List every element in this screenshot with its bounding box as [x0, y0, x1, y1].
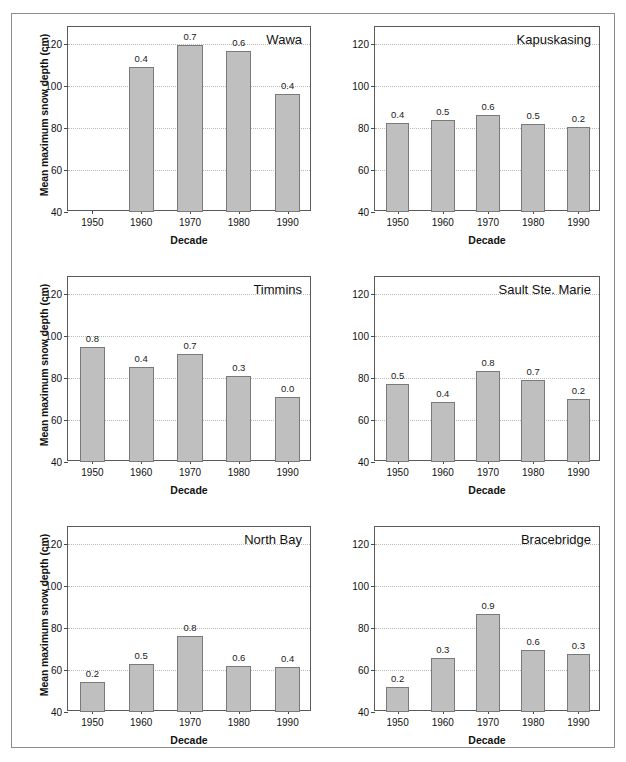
figure-frame: Mean maximum snow depth (cm)406080100120… — [11, 13, 615, 748]
gridline — [375, 86, 599, 87]
x-axis-title: Decade — [375, 234, 599, 246]
y-tick-label: 120 — [352, 38, 369, 49]
panel-grid: Mean maximum snow depth (cm)406080100120… — [12, 14, 614, 747]
bar-value-label: 0.6 — [527, 636, 540, 647]
panel-title: Bracebridge — [521, 532, 591, 547]
x-tick-label: 1970 — [179, 717, 201, 728]
y-tick-label: 100 — [352, 80, 369, 91]
bar — [521, 650, 545, 712]
panel-sault-ste-marie: 40608010012019500.519600.419700.819800.7… — [329, 264, 614, 514]
bar-value-label: 0.3 — [232, 362, 245, 373]
y-tick-label: 60 — [358, 414, 369, 425]
x-tick-label: 1970 — [179, 217, 201, 228]
gridline — [375, 336, 599, 337]
y-tick-label: 100 — [45, 80, 62, 91]
x-tick-label: 1950 — [81, 467, 103, 478]
panel-title: Kapuskasing — [517, 32, 591, 47]
y-tick-label: 80 — [358, 122, 369, 133]
x-tick-label: 1950 — [81, 217, 103, 228]
bar-value-label: 0.4 — [135, 353, 148, 364]
bar-value-label: 0.5 — [527, 110, 540, 121]
bar — [177, 636, 202, 712]
x-tick-label: 1990 — [567, 467, 589, 478]
bar-value-label: 0.5 — [436, 106, 449, 117]
y-tick-mark — [371, 170, 375, 171]
bar — [386, 384, 410, 462]
y-tick-mark — [371, 462, 375, 463]
panel-wawa: Mean maximum snow depth (cm)406080100120… — [17, 14, 329, 264]
bar — [567, 127, 591, 212]
bar-value-label: 0.5 — [135, 650, 148, 661]
y-tick-mark — [64, 586, 68, 587]
bar — [476, 614, 500, 712]
x-tick-label: 1960 — [130, 717, 152, 728]
y-tick-label: 120 — [45, 538, 62, 549]
y-tick-mark — [64, 294, 68, 295]
gridline — [68, 336, 310, 337]
y-tick-mark — [64, 420, 68, 421]
y-tick-mark — [64, 462, 68, 463]
panel-title: Timmins — [253, 282, 302, 297]
bar — [177, 354, 202, 462]
bar-value-label: 0.7 — [183, 340, 196, 351]
y-tick-label: 40 — [358, 457, 369, 468]
panel-title: Wawa — [266, 32, 302, 47]
plot-area-2: 40608010012019500.819600.419700.719800.3… — [67, 276, 311, 461]
y-tick-mark — [371, 586, 375, 587]
y-tick-label: 60 — [51, 414, 62, 425]
x-tick-label: 1980 — [228, 717, 250, 728]
x-tick-label: 1980 — [228, 217, 250, 228]
bar-value-label: 0.4 — [135, 53, 148, 64]
y-tick-mark — [371, 86, 375, 87]
x-tick-label: 1990 — [567, 717, 589, 728]
bar-value-label: 0.2 — [391, 673, 404, 684]
y-tick-label: 40 — [51, 207, 62, 218]
bar-value-label: 0.7 — [183, 31, 196, 42]
panel-timmins: Mean maximum snow depth (cm)406080100120… — [17, 264, 329, 514]
y-tick-label: 60 — [51, 664, 62, 675]
bar — [80, 682, 105, 712]
y-tick-label: 80 — [51, 122, 62, 133]
x-axis-title: Decade — [68, 484, 310, 496]
x-tick-label: 1970 — [477, 467, 499, 478]
y-tick-label: 40 — [358, 207, 369, 218]
y-tick-label: 100 — [352, 580, 369, 591]
y-tick-mark — [371, 670, 375, 671]
y-tick-mark — [64, 86, 68, 87]
bar-value-label: 0.9 — [481, 600, 494, 611]
y-tick-label: 100 — [352, 330, 369, 341]
x-tick-label: 1950 — [386, 217, 408, 228]
bar-value-label: 0.8 — [183, 622, 196, 633]
x-tick-label: 1970 — [477, 217, 499, 228]
x-axis-title: Decade — [68, 234, 310, 246]
bar-value-label: 0.4 — [281, 653, 294, 664]
y-tick-mark — [371, 712, 375, 713]
y-tick-mark — [371, 128, 375, 129]
y-tick-mark — [64, 170, 68, 171]
panel-title: North Bay — [244, 532, 302, 547]
bar-value-label: 0.4 — [281, 80, 294, 91]
bar — [521, 380, 545, 462]
x-axis-title: Decade — [68, 734, 310, 746]
bar — [226, 376, 251, 462]
x-tick-label: 1960 — [432, 217, 454, 228]
bar-value-label: 0.4 — [391, 109, 404, 120]
y-tick-label: 60 — [358, 164, 369, 175]
plot-area-4: 40608010012019500.219600.519700.819800.6… — [67, 526, 311, 711]
bar-value-label: 0.5 — [391, 370, 404, 381]
y-tick-mark — [64, 128, 68, 129]
x-tick-label: 1980 — [522, 717, 544, 728]
y-axis-title-0: Mean maximum snow depth (cm) — [19, 22, 35, 207]
x-tick-label: 1950 — [386, 717, 408, 728]
y-tick-mark — [371, 336, 375, 337]
y-tick-mark — [371, 378, 375, 379]
y-tick-label: 120 — [352, 288, 369, 299]
y-tick-mark — [64, 44, 68, 45]
y-tick-label: 120 — [45, 288, 62, 299]
bar — [129, 367, 154, 462]
x-tick-label: 1960 — [432, 467, 454, 478]
bar — [431, 120, 455, 213]
bar-value-label: 0.2 — [572, 113, 585, 124]
plot-area-0: 406080100120195019600.419700.719800.6199… — [67, 26, 311, 211]
plot-area-1: 40608010012019500.419600.519700.619800.5… — [374, 26, 600, 211]
